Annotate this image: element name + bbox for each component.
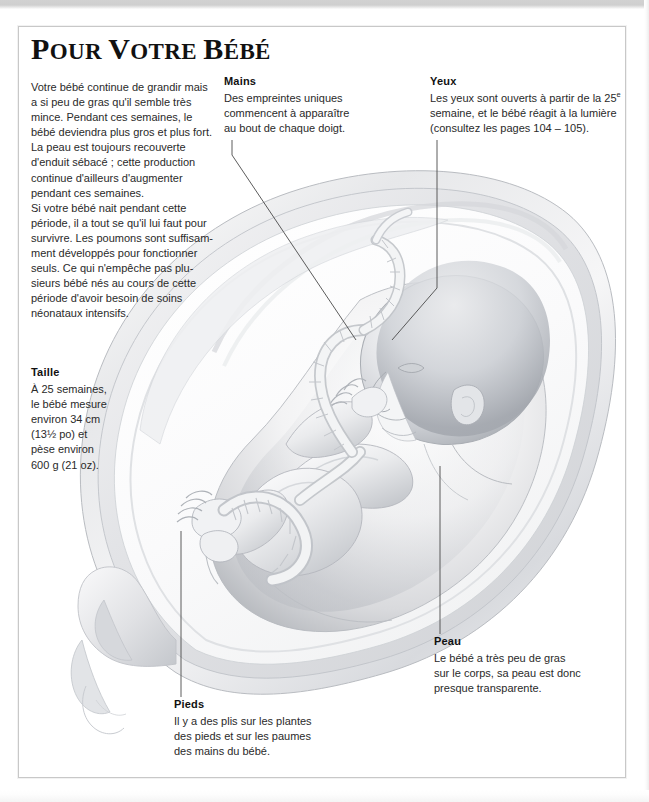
title-ebe: ÉBÉ xyxy=(224,39,271,64)
scan-edge-right xyxy=(644,0,649,802)
callout-pieds: Pieds Il y a des plis sur les plantes de… xyxy=(174,697,364,759)
callout-pieds-line: des mains du bébé. xyxy=(174,744,364,759)
scan-edge-top xyxy=(0,0,649,9)
intro-line: mince. Pendant ces semaines, le xyxy=(31,110,223,125)
intro-line: ment développés pour fonctionner xyxy=(31,246,223,261)
intro-line: bébé deviendra plus gros et plus fort. xyxy=(31,125,223,140)
callout-taille-label: Taille xyxy=(31,365,181,380)
title-our: OUR xyxy=(50,39,108,64)
callout-peau: Peau Le bébé a très peu de gras sur le c… xyxy=(434,634,634,696)
callout-taille-line: À 25 semaines, xyxy=(31,382,181,397)
callout-taille-line: (13½ po) et xyxy=(31,427,181,442)
callout-taille-line: 600 g (21 oz). xyxy=(31,458,181,473)
scan-edge-bottom xyxy=(0,790,649,802)
intro-line: Votre bébé continue de grandir mais xyxy=(31,80,223,95)
title-letter-b: B xyxy=(203,32,223,65)
callout-mains-label: Mains xyxy=(224,74,394,89)
ordinal-superscript: e xyxy=(617,90,621,99)
page-root: POUR VOTRE BÉBÉ Votre bébé continue de g… xyxy=(0,0,649,802)
title-letter-v: V xyxy=(108,32,130,65)
title-otre: OTRE xyxy=(130,39,203,64)
intro-line: a si peu de gras qu'il semble très xyxy=(31,95,223,110)
callout-taille-line: pèse environ xyxy=(31,442,181,457)
intro-line: période d'avoir besoin de soins xyxy=(31,291,223,306)
intro-line: d'enduit sébacé ; cette production xyxy=(31,155,223,170)
callout-yeux-line: Les yeux sont ouverts à partir de la 25e xyxy=(430,91,630,106)
callout-mains-line: Des empreintes uniques xyxy=(224,91,394,106)
callout-mains: Mains Des empreintes uniques commencent … xyxy=(224,74,394,136)
callout-taille-line: le bébé mesure xyxy=(31,397,181,412)
callout-yeux: Yeux Les yeux sont ouverts à partir de l… xyxy=(430,74,630,136)
intro-line: Si votre bébé nait pendant cette xyxy=(31,201,223,216)
callout-pieds-line: Il y a des plis sur les plantes xyxy=(174,714,364,729)
callout-peau-line: sur le corps, sa peau est donc xyxy=(434,666,634,681)
callout-yeux-label: Yeux xyxy=(430,74,630,89)
callout-peau-label: Peau xyxy=(434,634,634,649)
intro-paragraph: Votre bébé continue de grandir mais a si… xyxy=(31,80,223,322)
intro-line: continue d'ailleurs d'augmenter xyxy=(31,171,223,186)
callout-pieds-label: Pieds xyxy=(174,697,364,712)
callout-yeux-line: (consultez les pages 104 – 105). xyxy=(430,121,630,136)
callout-taille: Taille À 25 semaines, le bébé mesure env… xyxy=(31,365,181,473)
intro-line: seuls. Ce qui n'empêche pas plu- xyxy=(31,261,223,276)
intro-line: survivre. Les poumons sont suffisam- xyxy=(31,231,223,246)
callout-mains-line: au bout de chaque doigt. xyxy=(224,121,394,136)
title-letter-p: P xyxy=(31,32,50,65)
callout-yeux-line1-text: Les yeux sont ouverts à partir de la 25 xyxy=(430,92,617,104)
callout-mains-line: commencent à apparaître xyxy=(224,106,394,121)
intro-line: néonataux intensifs. xyxy=(31,306,223,321)
callout-pieds-line: des pieds et sur les paumes xyxy=(174,729,364,744)
page-title: POUR VOTRE BÉBÉ xyxy=(31,32,271,66)
callout-taille-line: environ 34 cm xyxy=(31,412,181,427)
intro-line: période, il a tout se qu'il lui faut pou… xyxy=(31,216,223,231)
callout-yeux-line: semaine, et le bébé réagit à la lumière xyxy=(430,106,630,121)
intro-line: pendant ces semaines. xyxy=(31,186,223,201)
callout-peau-line: Le bébé a très peu de gras xyxy=(434,651,634,666)
callout-peau-line: presque transparente. xyxy=(434,681,634,696)
intro-line: La peau est toujours recouverte xyxy=(31,140,223,155)
intro-line: sieurs bébé nés au cours de cette xyxy=(31,276,223,291)
